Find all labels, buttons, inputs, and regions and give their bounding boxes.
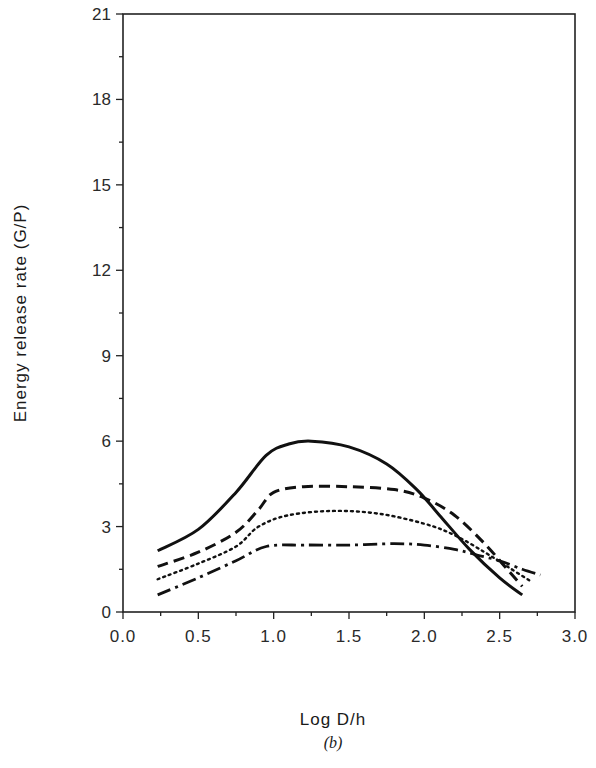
y-tick-label: 6	[102, 432, 111, 451]
y-tick-label: 3	[102, 518, 111, 537]
x-tick-label: 2.0	[411, 627, 438, 646]
y-tick-label: 0	[102, 603, 111, 622]
x-tick-label: 0.5	[185, 627, 212, 646]
x-axis-title: Log D/h	[300, 710, 367, 729]
energy-release-rate-chart: 036912151821 0.00.51.01.52.02.53.0 Energ…	[0, 0, 596, 768]
plot-frame	[123, 14, 575, 612]
y-tick-label: 12	[92, 261, 111, 280]
figure-caption: (b)	[324, 734, 343, 752]
y-tick-label: 21	[92, 5, 111, 24]
y-tick-label: 18	[92, 90, 111, 109]
y-axis-title: Energy release rate (G/P)	[11, 204, 30, 423]
y-axis-ticks: 036912151821	[92, 5, 123, 622]
y-tick-label: 9	[102, 347, 111, 366]
y-tick-label: 15	[92, 176, 111, 195]
x-tick-label: 1.5	[336, 627, 363, 646]
data-series	[158, 441, 541, 595]
x-tick-label: 1.0	[260, 627, 287, 646]
plot-axes	[123, 14, 575, 612]
x-tick-label: 3.0	[562, 627, 589, 646]
x-axis-ticks: 0.00.51.01.52.02.53.0	[110, 612, 589, 646]
x-tick-label: 0.0	[110, 627, 137, 646]
x-tick-label: 2.5	[486, 627, 513, 646]
